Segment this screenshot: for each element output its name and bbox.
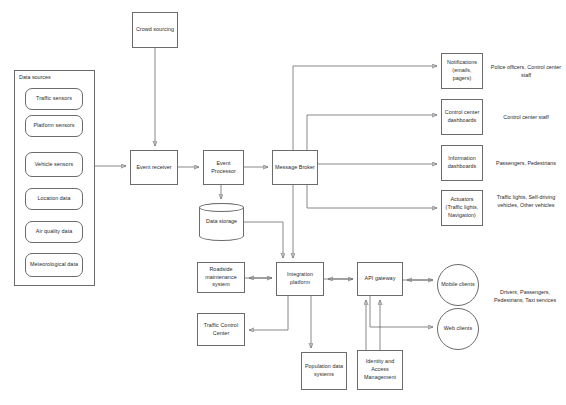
- population-data-systems-node[interactable]: Population data systems: [301, 352, 347, 390]
- wire-integration-platform-to-traffic-control: [249, 296, 288, 330]
- data-storage-node[interactable]: Data storage: [199, 203, 244, 241]
- message-broker-node[interactable]: Message Broker: [272, 150, 318, 185]
- control-center-dashboards-node[interactable]: Control center dashboards: [441, 99, 483, 135]
- information-dashboards-node[interactable]: Information dashboards: [441, 145, 483, 181]
- roadside-maintenance-system-node[interactable]: Roadside maintenance system: [197, 262, 245, 293]
- event-processor-node[interactable]: Event Processor: [203, 150, 244, 185]
- traffic-control-center-node[interactable]: Traffic Control Center: [197, 313, 245, 346]
- event-receiver-node[interactable]: Event receiver: [130, 150, 178, 185]
- control-center-dashboards-annotation: Control center staff: [489, 113, 563, 121]
- data-sources-group-label: Data sources: [19, 74, 51, 80]
- integration-platform-node[interactable]: Integration platform: [276, 262, 324, 296]
- source-platform-sensors[interactable]: Platform sensors: [25, 115, 83, 137]
- cylinder-top-shape: [199, 203, 244, 212]
- source-location-data[interactable]: Location data: [25, 188, 83, 210]
- source-vehicle-sensors[interactable]: Vehicle sensors: [25, 152, 83, 177]
- identity-access-management-node[interactable]: Identity and Access Management: [357, 350, 403, 390]
- web-clients-node[interactable]: Web clients: [437, 308, 479, 350]
- api-gateway-node[interactable]: API gateway: [357, 262, 403, 296]
- notifications-node[interactable]: Notifications (emails, pagers): [441, 53, 483, 89]
- clients-annotation: Drivers, Passengers, Pedestrians, Taxi s…: [487, 288, 563, 304]
- source-meteorological-data[interactable]: Meteorological data: [25, 253, 83, 277]
- actuators-node[interactable]: Actuators (Traffic lights, Navigation): [441, 190, 483, 226]
- mobile-clients-node[interactable]: Mobile clients: [437, 264, 479, 306]
- actuators-annotation: Traffic lights, Self-driving vehicles, O…: [489, 193, 563, 209]
- data-storage-label: Data storage: [206, 218, 237, 226]
- wire-broker-to-notifications: [293, 66, 437, 150]
- crowd-sourcing-node[interactable]: Crowd sourcing: [132, 12, 178, 48]
- notifications-annotation: Police officers, Control center staff: [489, 63, 563, 79]
- wire-api-gateway-to-web-clients: [370, 296, 433, 327]
- information-dashboards-annotation: Passengers, Pedestrians: [489, 159, 563, 167]
- source-air-quality-data[interactable]: Air quality data: [25, 221, 83, 243]
- architecture-diagram-canvas: Data sources Traffic sensors Platform se…: [0, 0, 566, 405]
- wire-broker-to-actuators: [307, 185, 437, 208]
- wire-broker-to-control-dashboards: [307, 115, 437, 150]
- wire-storage-to-integration-platform: [244, 222, 283, 258]
- source-traffic-sensors[interactable]: Traffic sensors: [25, 88, 83, 110]
